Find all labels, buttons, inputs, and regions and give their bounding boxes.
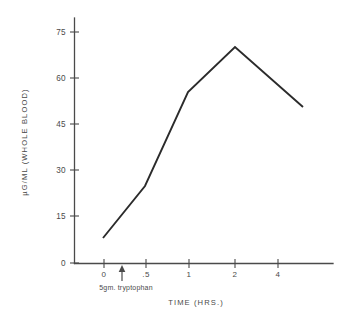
y-tick-label-60: 60: [56, 74, 66, 83]
dose-arrow-icon: [119, 265, 126, 281]
y-tick-label-15: 15: [56, 212, 66, 221]
y-axis-title: µG/ML (WHOLE BLOOD): [20, 88, 29, 195]
x-axis-title: TIME (HRS.): [168, 298, 224, 307]
y-tick-label-45: 45: [56, 120, 66, 129]
dose-annotation-label: 5gm. tryptophan: [99, 284, 153, 292]
x-tick-label-1: 1: [187, 270, 192, 279]
chart-figure: 75 60 45 30 15 0 0 .5 1 2 4 5gm. tryptop…: [0, 0, 339, 312]
y-tick-label-30: 30: [56, 166, 66, 175]
x-tick-label-0.5: .5: [142, 270, 150, 279]
y-tick-label-75: 75: [56, 28, 66, 37]
data-series-line: [103, 47, 303, 238]
x-tick-label-0: 0: [102, 270, 107, 279]
x-tick-label-2: 2: [233, 270, 238, 279]
y-tick-label-0: 0: [61, 259, 66, 268]
x-tick-label-4: 4: [276, 270, 281, 279]
line-chart: 75 60 45 30 15 0 0 .5 1 2 4 5gm. tryptop…: [0, 0, 339, 312]
